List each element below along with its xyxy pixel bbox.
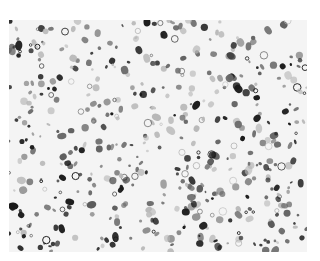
cell-scatter [9, 20, 307, 252]
microscopy-image [9, 20, 307, 252]
